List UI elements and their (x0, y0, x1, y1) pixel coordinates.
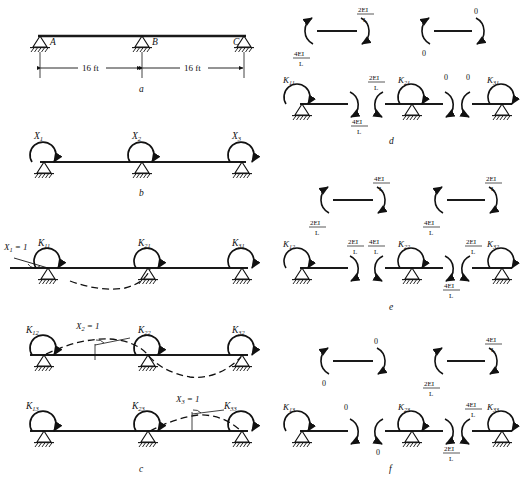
deflection-curve-c1 (70, 269, 150, 289)
segment-arc-left-f2 (435, 348, 443, 374)
segment-arc-left-f1 (321, 348, 329, 374)
joint-support-e2 (402, 268, 422, 284)
panel-a: A B C 16 ft 16 ft a (30, 36, 254, 94)
moment-arrow-x3 (228, 142, 254, 162)
svg-text:L: L (379, 185, 383, 193)
joint-support-d2 (402, 104, 422, 120)
joint-moment-label-k21-d: K21 (397, 75, 410, 86)
support-b-left (34, 162, 54, 178)
segment-moment-left-e1: 2EI L (309, 219, 326, 237)
svg-text:4EI: 4EI (444, 282, 455, 290)
segment-moment-right-f1: 0 (374, 337, 378, 346)
panel-e-segment-1: 2EI L 4EI L (309, 175, 390, 237)
svg-text:2EI: 2EI (310, 219, 321, 227)
joint-moment-right-e2: 4EI L (443, 282, 460, 300)
panel-c-row-2: X2= 1 K12 K22 K32 (25, 321, 254, 377)
support-a-mid (132, 36, 152, 52)
segment-moment-right-f2: 4EI L (485, 336, 502, 354)
moment-label-k32-c: K32 (231, 325, 246, 336)
joint-support-e1 (292, 268, 312, 284)
svg-text:L: L (491, 346, 495, 354)
support-a-left (30, 36, 50, 52)
joint-moment-arc-d3 (488, 84, 514, 104)
joint-arc-right-e2 (445, 256, 453, 281)
segment-moment-right-d1: 2EI L (357, 6, 374, 24)
svg-text:2EI: 2EI (369, 74, 380, 82)
svg-text:L: L (449, 455, 453, 463)
svg-text:2EI: 2EI (486, 175, 497, 183)
svg-text:L: L (299, 60, 303, 68)
moment-label-k11-c: K11 (37, 238, 50, 249)
svg-text:L: L (363, 16, 367, 24)
svg-text:L: L (374, 248, 378, 256)
joint-moment-label-k31-d: K31 (486, 75, 499, 86)
svg-text:4EI: 4EI (486, 336, 497, 344)
segment-moment-right-d2: 0 (474, 7, 478, 16)
moment-label-k23-c: K23 (131, 401, 145, 412)
moment-arrow-k31-c (228, 248, 254, 268)
panel-caption-f: f (389, 464, 393, 474)
panel-b: X1 X2 X3 b (30, 131, 254, 198)
svg-text:4EI: 4EI (369, 238, 380, 246)
joint-moment-arc-f1 (284, 411, 310, 431)
moment-arrow-k32-c (228, 335, 254, 355)
panel-c-row-3: X3= 1 K13 K23 K33 c (25, 394, 254, 474)
joint-moment-label-k12-e: K12 (282, 239, 295, 250)
joint-moment-arc-f3 (488, 411, 514, 431)
panel-caption-c: c (139, 464, 144, 474)
joint-arc-right-f1 (350, 419, 358, 444)
panel-d-segment-1: 4EI L 2EI L (293, 6, 374, 68)
joint-moment-left-d3: 0 (466, 73, 470, 82)
dimension-label-2: 16 ft (184, 63, 201, 73)
moment-label-x2: X2 (131, 131, 142, 142)
joint-moment-right-f1: 0 (344, 403, 348, 412)
rotation-arc-c2 (96, 340, 104, 343)
segment-arc-right-d2 (476, 18, 484, 44)
segment-moment-left-f1: 0 (322, 379, 326, 388)
segment-moment-left-d2: 0 (422, 49, 426, 58)
panel-d-segment-2: 0 0 (422, 7, 484, 58)
panel-c-row-1: X1= 1 K11 K21 K31 (3, 238, 254, 289)
moment-arrow-k12-c (30, 335, 56, 355)
segment-arc-right-f1 (377, 348, 385, 374)
joint-moment-right-d1: 4EI L (351, 118, 368, 136)
joint-moment-arc-e3 (488, 248, 514, 268)
panel-e: 2EI L 4EI L 4EI L 2EI L (282, 175, 514, 312)
dimension-label-1: 16 ft (82, 63, 99, 73)
moment-label-x3: X3 (231, 131, 242, 142)
support-b-mid (132, 162, 152, 178)
panel-caption-d: d (389, 136, 394, 146)
joint-support-e3 (492, 268, 512, 284)
joint-arc-left-e3 (462, 256, 470, 281)
segment-moment-left-f2: 2EI L (423, 380, 440, 398)
joint-arc-left-f2 (375, 419, 383, 444)
svg-text:4EI: 4EI (294, 50, 305, 58)
joint-moment-label-k13-f: K13 (282, 402, 295, 413)
svg-text:L: L (471, 248, 475, 256)
svg-text:4EI: 4EI (466, 401, 477, 409)
joint-moment-label-k32-e: K32 (486, 239, 499, 250)
panel-caption-a: a (139, 84, 144, 94)
joint-moment-arc-d2 (398, 84, 424, 104)
applied-rotation-label-c2: X2= 1 (75, 321, 100, 332)
panel-f: 0 0 2EI L 4EI L K13 (282, 336, 514, 474)
segment-arc-left-d1 (305, 18, 313, 44)
svg-text:4EI: 4EI (374, 175, 385, 183)
panel-f-joint-3: 4EI L K33 (462, 401, 514, 447)
svg-text:2EI: 2EI (466, 238, 477, 246)
support-c2-left (34, 355, 54, 371)
joint-moment-arc-d1 (284, 84, 310, 104)
moment-arrow-x1 (30, 142, 56, 162)
joint-arc-left-e2 (375, 256, 383, 281)
joint-support-f1 (292, 431, 312, 447)
deflection-curve-c3 (150, 415, 240, 431)
joint-moment-left-e3: 2EI L (465, 238, 482, 256)
svg-text:L: L (471, 411, 475, 419)
moment-label-k13-c: K13 (25, 401, 39, 412)
joint-arc-right-d2 (445, 92, 453, 117)
joint-support-f3 (492, 431, 512, 447)
applied-rotation-label-c3: X3= 1 (175, 394, 200, 405)
support-c1-left (38, 268, 58, 284)
segment-moment-left-e2: 4EI L (423, 219, 440, 237)
joint-arc-left-d2 (375, 92, 383, 117)
